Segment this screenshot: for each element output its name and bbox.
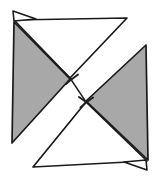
pinwheel-triangles-drawing (0, 0, 159, 181)
figure-canvas: Pinwheel of four triangles in a square o… (0, 0, 159, 181)
